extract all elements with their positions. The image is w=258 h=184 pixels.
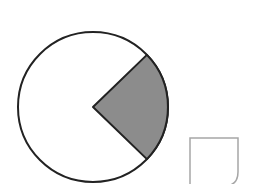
- answer-box: [190, 138, 238, 184]
- fraction-diagram: [0, 0, 258, 184]
